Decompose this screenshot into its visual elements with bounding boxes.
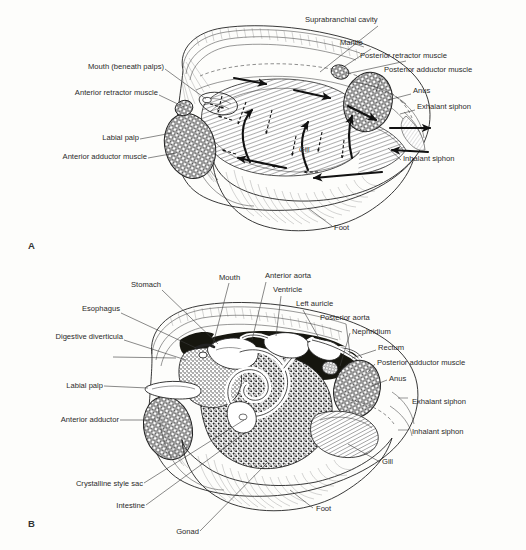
label-exhalant-siphon-b: Exhalant siphon bbox=[412, 397, 466, 406]
mouth-opening-a bbox=[203, 97, 211, 102]
label-crystalline-style-sac-b: Crystalline style sac bbox=[76, 479, 143, 488]
label-inhalant-siphon-a: Inhalant siphon bbox=[403, 154, 455, 163]
label-anus-b: Anus bbox=[389, 374, 407, 383]
label-posterior-adductor-muscle-b: Posterior adductor muscle bbox=[377, 358, 465, 367]
label-mouth-beneath-palps-a: Mouth (beneath palps) bbox=[88, 62, 164, 71]
label-anus-a: Anus bbox=[413, 86, 431, 95]
label-stomach-b: Stomach bbox=[131, 280, 161, 289]
label-intestine-b: Intestine bbox=[116, 501, 145, 510]
label-foot-a: Foot bbox=[334, 223, 350, 232]
label-inhalant-siphon-b: Inhalant siphon bbox=[412, 427, 464, 436]
label-digestive-diverticula-b: Digestive diverticula bbox=[55, 332, 123, 341]
panel-letter-b: B bbox=[28, 518, 35, 529]
label-exhalant-siphon-a: Exhalant siphon bbox=[417, 102, 471, 111]
label-posterior-adductor-muscle-a: Posterior adductor muscle bbox=[384, 65, 472, 74]
label-left-auricle-b: Left auricle bbox=[296, 299, 333, 308]
label-rectum-b: Rectum bbox=[378, 343, 404, 352]
label-posterior-aorta-b: Posterior aorta bbox=[320, 313, 371, 322]
label-mouth-b: Mouth bbox=[219, 273, 240, 282]
label-posterior-retractor-muscle-a: Posterior retractor muscle bbox=[360, 51, 447, 60]
label-labial-palp-a: Labial palp bbox=[102, 133, 139, 142]
label-anterior-adductor-muscle-a: Anterior adductor muscle bbox=[63, 152, 147, 161]
label-ventricle-b: Ventricle bbox=[273, 285, 302, 294]
figure-canvas: Suprabranchial cavity Mantle Posterior r… bbox=[0, 0, 526, 550]
label-gonad-b: Gonad bbox=[176, 527, 199, 536]
label-mantle-a: Mantle bbox=[340, 38, 363, 47]
label-labial-palp-b: Labial palp bbox=[66, 381, 103, 390]
label-esophagus-b: Esophagus bbox=[82, 304, 120, 313]
bivalve-anatomy-figure: Suprabranchial cavity Mantle Posterior r… bbox=[0, 0, 526, 550]
label-anterior-retractor-muscle-a: Anterior retractor muscle bbox=[75, 88, 158, 97]
label-anterior-adductor-b: Anterior adductor bbox=[61, 415, 120, 424]
label-anterior-aorta-b: Anterior aorta bbox=[265, 271, 312, 280]
label-nephridium-b: Nephridium bbox=[352, 327, 391, 336]
label-gill-b: Gill bbox=[382, 457, 393, 466]
label-suprabranchial-cavity-a: Suprabranchial cavity bbox=[305, 15, 378, 24]
label-foot-b: Foot bbox=[316, 504, 332, 513]
mouth-opening-b bbox=[199, 352, 207, 358]
label-gill-a: Gill bbox=[299, 145, 310, 154]
panel-letter-a: A bbox=[28, 240, 35, 251]
